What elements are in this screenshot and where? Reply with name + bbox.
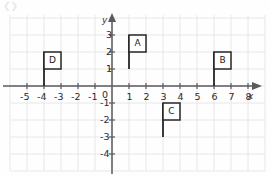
x-tick-label: 5 — [195, 92, 201, 102]
coordinate-plane-figure: ❮❯ -5-4-3-2-112345678321-1-2-3-4 ABCD x … — [0, 0, 270, 177]
x-tick-label: -4 — [37, 92, 46, 102]
x-tick-label: -2 — [71, 92, 80, 102]
x-tick-label: 2 — [144, 92, 150, 102]
coordinate-plane-svg — [0, 0, 270, 177]
x-axis-label: x — [248, 92, 253, 102]
origin-label: 0 — [102, 90, 108, 100]
flag-label-b: B — [214, 56, 231, 65]
x-tick-label: 6 — [212, 92, 218, 102]
x-tick-label: -3 — [54, 92, 63, 102]
y-tick-label: -2 — [100, 115, 109, 125]
y-tick-label: -3 — [100, 132, 109, 142]
x-tick-label: -1 — [88, 92, 97, 102]
x-tick-label: 3 — [161, 92, 167, 102]
flag-label-d: D — [44, 56, 61, 65]
x-tick-label: 4 — [178, 92, 184, 102]
x-tick-label: 1 — [127, 92, 133, 102]
flag-label-c: C — [163, 107, 180, 116]
y-tick-label: 2 — [106, 47, 112, 57]
y-tick-label: -4 — [100, 149, 109, 159]
x-tick-label: 7 — [229, 92, 235, 102]
y-axis-label: y — [102, 16, 107, 26]
x-tick-label: -5 — [20, 92, 29, 102]
y-tick-label: 1 — [106, 64, 112, 74]
corner-artifact: ❮❯ — [3, 1, 17, 11]
y-tick-label: 3 — [106, 30, 112, 40]
flag-label-a: A — [129, 39, 146, 48]
